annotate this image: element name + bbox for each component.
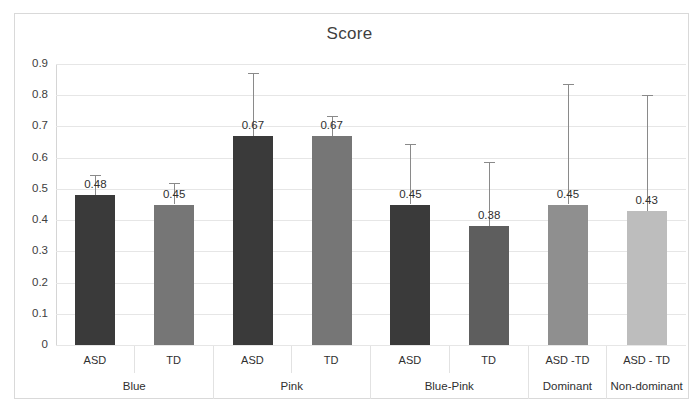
bar-value-label: 0.45 xyxy=(538,188,598,200)
y-axis-tick-label: 0.2 xyxy=(14,276,48,288)
gridline xyxy=(56,251,686,252)
bar xyxy=(154,205,194,346)
group-label: Blue xyxy=(56,373,214,399)
gridline xyxy=(56,283,686,284)
y-axis-tick-label: 0.9 xyxy=(14,57,48,69)
category-label: ASD -TD xyxy=(529,346,608,373)
y-axis-tick-label: 0.6 xyxy=(14,151,48,163)
error-bar-cap xyxy=(248,73,259,74)
group-labels-row: BluePinkBlue-PinkDominantNon-dominant xyxy=(56,373,686,399)
y-axis-tick-label: 0.3 xyxy=(14,244,48,256)
category-label: ASD xyxy=(371,346,450,373)
bar-value-label: 0.67 xyxy=(223,119,283,131)
error-bar-cap xyxy=(563,84,574,85)
category-label: TD xyxy=(292,346,371,373)
category-label: TD xyxy=(450,346,529,373)
y-axis-tick-label: 0.5 xyxy=(14,182,48,194)
y-axis-tick-label: 0 xyxy=(14,338,48,350)
error-bar xyxy=(568,84,569,204)
bar xyxy=(312,136,352,345)
y-axis-tick-label: 0.4 xyxy=(14,213,48,225)
bar xyxy=(233,136,273,345)
category-labels-row: ASDTDASDTDASDTDASD -TDASD - TD xyxy=(56,346,686,373)
error-bar-cap xyxy=(484,162,495,163)
category-label: ASD xyxy=(214,346,293,373)
gridline xyxy=(56,314,686,315)
gridline xyxy=(56,158,686,159)
bar-value-label: 0.45 xyxy=(144,188,204,200)
gridline xyxy=(56,64,686,65)
bar xyxy=(390,205,430,346)
bar-value-label: 0.67 xyxy=(302,119,362,131)
plot-area: 0.480.450.670.670.450.380.450.43 xyxy=(56,64,686,345)
error-bar-cap xyxy=(169,183,180,184)
bar xyxy=(75,195,115,345)
gridline xyxy=(56,95,686,96)
category-label: ASD - TD xyxy=(607,346,686,373)
bar xyxy=(469,226,509,345)
group-label: Non-dominant xyxy=(607,373,686,399)
gridline xyxy=(56,220,686,221)
error-bar-cap xyxy=(405,144,416,145)
y-axis-tick-label: 0.8 xyxy=(14,88,48,100)
group-label: Dominant xyxy=(529,373,608,399)
error-bar-cap xyxy=(90,175,101,176)
bar xyxy=(627,211,667,345)
error-bar-cap xyxy=(642,95,653,96)
bar-value-label: 0.48 xyxy=(65,178,125,190)
y-axis-tick-label: 0.1 xyxy=(14,307,48,319)
bar-value-label: 0.38 xyxy=(459,209,519,221)
y-axis-tick-label: 0.7 xyxy=(14,119,48,131)
category-label: TD xyxy=(135,346,214,373)
error-bar-cap xyxy=(327,116,338,117)
gridline xyxy=(56,126,686,127)
bar-value-label: 0.43 xyxy=(617,194,677,206)
group-label: Blue-Pink xyxy=(371,373,529,399)
bar xyxy=(548,205,588,346)
bar-value-label: 0.45 xyxy=(380,188,440,200)
category-label: ASD xyxy=(56,346,135,373)
group-label: Pink xyxy=(214,373,372,399)
chart-title: Score xyxy=(0,24,699,44)
